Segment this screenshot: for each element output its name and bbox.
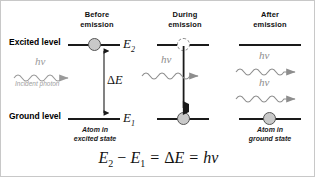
photon-stimulating: hν xyxy=(141,56,213,84)
photon-emitted-1-wave-icon xyxy=(235,65,311,79)
energy-label-e2: E2 xyxy=(123,36,135,54)
column-header-before: Before emission xyxy=(65,10,129,29)
delta-e-label: ΔE xyxy=(107,73,123,88)
column-header-before-line1: Before xyxy=(65,10,129,20)
photon-emitted-2: hν xyxy=(235,79,311,107)
row-label-excited-level: Excited level xyxy=(9,37,61,47)
energy-label-e2-symbol: E xyxy=(123,36,131,51)
row-label-ground-level: Ground level xyxy=(9,111,61,121)
atom-caption-after-line2: ground state xyxy=(233,135,307,144)
atom-caption-after: Atom in ground state xyxy=(233,126,307,143)
column-header-after-line2: emission xyxy=(235,20,305,30)
column-header-after: After emission xyxy=(235,10,305,29)
column-header-during-line1: During xyxy=(153,10,217,20)
photon-emitted-1-label: hν xyxy=(259,49,269,61)
equation-hv: hν xyxy=(203,149,218,166)
photon-emitted-1: hν xyxy=(235,52,311,80)
equation-e1: E xyxy=(130,149,140,166)
energy-level-diagram: Before emission During emission After em… xyxy=(0,0,315,177)
equation-e2: E xyxy=(99,149,109,166)
photon-emitted-2-label: hν xyxy=(259,76,269,88)
level-line-excited-after xyxy=(239,44,301,46)
delta-symbol: Δ xyxy=(107,73,115,87)
column-header-during: During emission xyxy=(153,10,217,29)
equation-delta-e: ΔE xyxy=(164,149,184,166)
level-line-ground-before xyxy=(68,118,120,120)
photon-incident-label: hν xyxy=(35,55,45,67)
column-header-during-line2: emission xyxy=(153,20,217,30)
photon-emitted-2-wave-icon xyxy=(235,92,311,106)
atom-caption-before-line2: excited state xyxy=(58,135,132,144)
atom-before-excited xyxy=(88,38,101,51)
energy-label-e2-sub: 2 xyxy=(131,45,135,54)
atom-caption-before: Atom in excited state xyxy=(58,126,132,143)
atom-after-ground xyxy=(263,112,276,125)
equation-equals-2: = xyxy=(184,149,203,166)
delta-e-symbol: E xyxy=(115,73,123,87)
column-header-after-line1: After xyxy=(235,10,305,20)
equation: E2−E1=ΔE=hν xyxy=(1,149,315,169)
column-header-before-line2: emission xyxy=(65,20,129,30)
energy-label-e1-symbol: E xyxy=(123,110,131,125)
atom-caption-before-line1: Atom in xyxy=(58,126,132,135)
energy-label-e1: E1 xyxy=(123,110,135,128)
photon-stimulating-label: hν xyxy=(161,53,171,65)
photon-incident: hν Incident photon xyxy=(13,59,83,89)
equation-minus: − xyxy=(113,149,130,166)
photon-incident-caption: Incident photon xyxy=(15,80,59,87)
equation-equals-1: = xyxy=(145,149,164,166)
photon-stimulating-wave-icon xyxy=(141,69,213,83)
atom-caption-after-line1: Atom in xyxy=(233,126,307,135)
